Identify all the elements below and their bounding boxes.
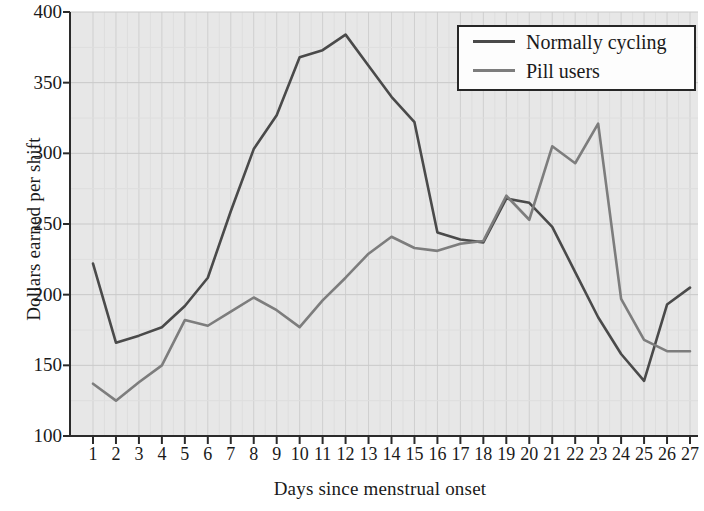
legend-item-normally-cycling: Normally cycling [459,27,694,56]
y-axis-label: Dollars earned per shift [23,99,45,359]
legend-item-pill-users: Pill users [459,56,694,85]
x-tick-label: 27 [675,444,704,464]
legend-label-pill-users: Pill users [526,61,600,81]
y-tick-label: 400 [8,2,62,21]
legend-swatch-pill-users [473,69,515,72]
legend-swatch-normally-cycling [473,40,515,43]
y-tick-label: 100 [8,426,62,445]
legend-label-normally-cycling: Normally cycling [526,32,667,52]
y-tick-label: 350 [8,73,62,92]
x-axis-label: Days since menstrual onset [80,478,680,500]
chart-legend: Normally cycling Pill users [457,25,696,91]
